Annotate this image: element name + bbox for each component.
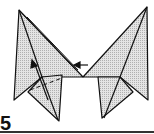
left-flap <box>14 10 83 121</box>
right-flap <box>83 7 148 118</box>
step-number: 5 <box>0 113 11 133</box>
fold-in-arrow-icon <box>74 62 88 68</box>
origami-diagram <box>0 0 154 134</box>
baseline-divider <box>0 131 154 133</box>
